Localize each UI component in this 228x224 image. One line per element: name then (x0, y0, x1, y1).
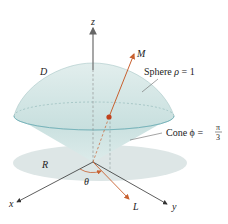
cone-fraction-denominator: 3 (216, 133, 220, 142)
region-R-label: R (41, 159, 48, 170)
theta-label: θ (84, 176, 89, 187)
sphere-label: Sphere ρ = 1 (144, 66, 195, 77)
z-axis-label: z (90, 16, 95, 27)
diagram-canvas: z x y D R M L θ Sphere ρ = 1 Cone ϕ = π … (0, 0, 228, 224)
point-L-label: L (132, 201, 139, 212)
sample-point (106, 114, 111, 119)
x-axis-label: x (8, 198, 14, 209)
spherical-region-diagram: z x y D R M L θ Sphere ρ = 1 Cone ϕ = π … (0, 0, 228, 224)
point-M-label: M (136, 48, 146, 59)
cone-fraction-numerator: π (216, 123, 220, 132)
region-D-label: D (39, 66, 48, 77)
cone-label: Cone ϕ = (166, 127, 203, 138)
y-axis-label: y (171, 201, 177, 212)
